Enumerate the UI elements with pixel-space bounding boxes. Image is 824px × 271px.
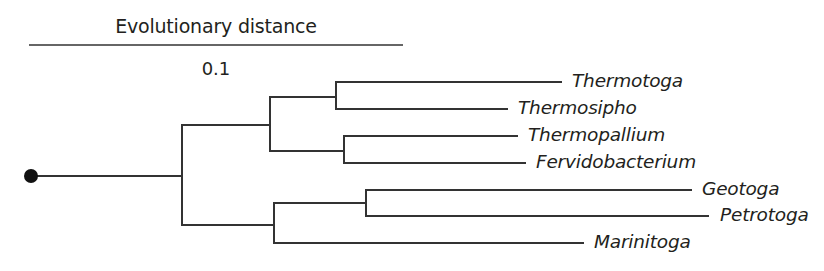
taxon-label-thermosipho: Thermosipho xyxy=(518,99,637,118)
taxon-label-thermopallium: Thermopallium xyxy=(528,126,665,145)
taxon-label-petrotoga: Petrotoga xyxy=(720,206,809,225)
taxon-label-thermotoga: Thermotoga xyxy=(572,72,683,91)
taxon-label-marinitoga: Marinitoga xyxy=(594,233,691,252)
taxon-label-fervidobacterium: Fervidobacterium xyxy=(536,153,696,172)
root-node-icon xyxy=(24,169,38,183)
phylogenetic-tree xyxy=(0,0,824,271)
taxon-label-geotoga: Geotoga xyxy=(702,180,779,199)
